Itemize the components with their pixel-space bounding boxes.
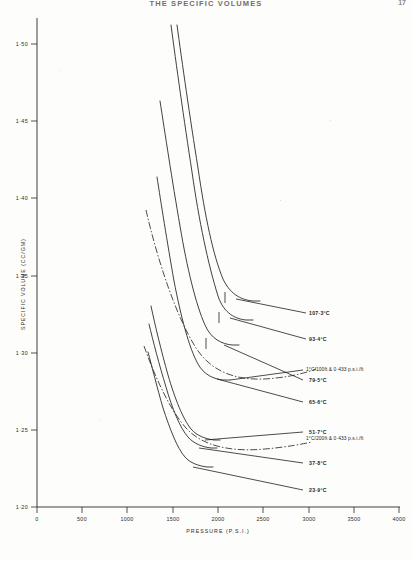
chart-canvas <box>0 0 412 561</box>
curve-23-9 <box>148 352 213 467</box>
knee-marks <box>206 292 225 349</box>
x-tick-label-500: 500 <box>77 516 87 522</box>
curve-51-7 <box>151 306 220 440</box>
label-leader-lines <box>193 299 306 490</box>
x-axis-ticks <box>37 507 399 513</box>
leader-107-3 <box>236 299 306 313</box>
x-tick-label-3000: 3000 <box>302 516 315 522</box>
gradient-lines <box>144 210 316 450</box>
leader-65-6 <box>217 379 303 402</box>
y-tick-label-1-50: 1·50 <box>4 41 28 47</box>
label-51-7: 51·7°C <box>309 429 327 435</box>
label-23-9: 23·9°C <box>309 487 327 493</box>
label-93-4: 93·4°C <box>309 336 327 342</box>
leader-51-7 <box>205 432 303 440</box>
x-tick-label-1000: 1000 <box>120 516 133 522</box>
curve-107-3 <box>177 25 260 301</box>
label-gradient-200ft: 1°C/200ft & 0·433 p.s.i./ft <box>306 436 363 441</box>
scan-speck <box>100 420 101 421</box>
x-tick-label-1500: 1500 <box>166 516 179 522</box>
leader-37-8 <box>199 448 303 463</box>
y-axis-title: SPECIFIC VOLUME (CC/GM) <box>20 238 26 330</box>
label-107-3: 107·3°C <box>309 310 330 316</box>
gradient-line-100ft <box>146 210 316 379</box>
y-tick-label-1-20: 1·20 <box>4 504 28 510</box>
leader-23-9 <box>193 467 303 490</box>
label-37-8: 37·8°C <box>309 460 327 466</box>
y-tick-label-1-25: 1·25 <box>4 427 28 433</box>
scan-speck <box>280 200 281 201</box>
x-axis-title: PRESSURE (P.S.I.) <box>186 528 249 534</box>
leader-79-5 <box>224 345 303 380</box>
y-tick-label-1-40: 1·40 <box>4 195 28 201</box>
y-axis-ticks <box>31 44 37 507</box>
x-tick-label-2000: 2000 <box>211 516 224 522</box>
leader-93-4 <box>230 318 306 339</box>
scan-speck <box>60 70 61 71</box>
y-tick-label-1-30: 1·30 <box>4 350 28 356</box>
label-gradient-100ft: 1°C/100ft & 0·433 p.s.i./ft <box>306 367 363 372</box>
x-tick-label-2500: 2500 <box>256 516 269 522</box>
axis-lines <box>37 18 400 507</box>
x-tick-label-4000: 4000 <box>392 516 405 522</box>
x-tick-label-3500: 3500 <box>347 516 360 522</box>
x-tick-label-0: 0 <box>35 516 38 522</box>
curve-79-5 <box>160 101 239 345</box>
curve-65-6 <box>157 177 230 380</box>
figure-page: THE SPECIFIC VOLUMES 17 <box>0 0 412 561</box>
y-tick-label-1-45: 1·45 <box>4 118 28 124</box>
label-79-5: 79·5°C <box>309 377 327 383</box>
isotherm-curves <box>148 25 260 467</box>
scan-speck <box>330 120 331 121</box>
label-65-6: 65·6°C <box>309 399 327 405</box>
